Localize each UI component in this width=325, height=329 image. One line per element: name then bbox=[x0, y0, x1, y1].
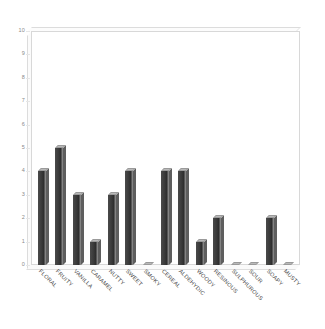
bar-sweet bbox=[125, 171, 133, 265]
y-axis-tick-label: 9 bbox=[22, 52, 25, 58]
y-axis-tick-label: 8 bbox=[22, 75, 25, 81]
y-axis-tick-mark bbox=[26, 148, 30, 149]
y-axis-tick-label: 5 bbox=[22, 145, 25, 151]
bar-body bbox=[161, 171, 169, 265]
bar-side-face bbox=[63, 145, 66, 265]
bar-woody bbox=[196, 242, 204, 265]
bar-top-face bbox=[143, 262, 154, 265]
bar-body bbox=[38, 171, 46, 265]
bar-side-face bbox=[98, 239, 101, 265]
y-axis-tick-label: 0 bbox=[22, 262, 25, 268]
bar-soapy bbox=[266, 218, 274, 265]
y-axis-tick-label: 10 bbox=[18, 28, 25, 34]
y-axis-tick-mark bbox=[26, 265, 30, 266]
bar-side-face bbox=[133, 168, 136, 265]
bar-chart: 012345678910 FLORALFRUITYVANILLACARAMELN… bbox=[0, 0, 325, 329]
bar-top-face bbox=[248, 262, 259, 265]
bar-aldehydic bbox=[178, 171, 186, 265]
bar-side-face bbox=[169, 168, 172, 265]
bars-layer bbox=[31, 31, 300, 265]
bar-body bbox=[213, 218, 221, 265]
bar-sulphurous bbox=[231, 262, 239, 265]
bar-cereal bbox=[161, 171, 169, 265]
y-axis: 012345678910 bbox=[0, 0, 31, 329]
bar-fruity bbox=[55, 148, 63, 265]
y-axis-tick-mark bbox=[26, 125, 30, 126]
y-axis-tick-mark bbox=[26, 218, 30, 219]
x-axis-label-sweet: SWEET bbox=[125, 268, 144, 287]
x-axis-label-soapy: SOAPY bbox=[265, 268, 284, 287]
bar-side-face bbox=[221, 215, 224, 265]
y-axis-tick-mark bbox=[26, 195, 30, 196]
x-axis-label-musty: MUSTY bbox=[283, 268, 302, 287]
bar-side-face bbox=[81, 192, 84, 265]
x-axis-labels: FLORALFRUITYVANILLACARAMELNUTTYSWEETSMOK… bbox=[31, 268, 300, 329]
bar-musty bbox=[283, 262, 291, 265]
x-axis-label-sour: SOUR bbox=[248, 268, 264, 284]
bar-side-face bbox=[186, 168, 189, 265]
x-axis-label-smoky: SMOKY bbox=[143, 268, 162, 287]
bar-sour bbox=[248, 262, 256, 265]
y-axis-tick-mark bbox=[26, 101, 30, 102]
bar-side-face bbox=[274, 215, 277, 265]
y-axis-tick-label: 1 bbox=[22, 239, 25, 245]
bar-side-face bbox=[116, 192, 119, 265]
bar-top-face bbox=[231, 262, 242, 265]
bar-body bbox=[266, 218, 274, 265]
y-axis-tick-label: 2 bbox=[22, 215, 25, 221]
y-axis-tick-label: 3 bbox=[22, 192, 25, 198]
y-axis-tick-label: 6 bbox=[22, 122, 25, 128]
bar-caramel bbox=[90, 242, 98, 265]
bar-body bbox=[108, 195, 116, 265]
bar-vanilla bbox=[73, 195, 81, 265]
bar-resinous bbox=[213, 218, 221, 265]
y-axis-tick-mark bbox=[26, 242, 30, 243]
bar-nutty bbox=[108, 195, 116, 265]
y-axis-tick-mark bbox=[26, 78, 30, 79]
bar-side-face bbox=[46, 168, 49, 265]
bar-smoky bbox=[143, 262, 151, 265]
bar-body bbox=[196, 242, 204, 265]
y-axis-tick-mark bbox=[26, 54, 30, 55]
y-axis-tick-mark bbox=[26, 171, 30, 172]
bar-side-face bbox=[204, 239, 207, 265]
bar-floral bbox=[38, 171, 46, 265]
bar-body bbox=[73, 195, 81, 265]
bar-top-face bbox=[283, 262, 294, 265]
y-axis-tick-label: 4 bbox=[22, 169, 25, 175]
y-axis-tick-label: 7 bbox=[22, 98, 25, 104]
bar-body bbox=[178, 171, 186, 265]
y-axis-tick-mark bbox=[26, 31, 30, 32]
x-axis-label-sulphurous: SULPHUROUS bbox=[230, 268, 263, 301]
